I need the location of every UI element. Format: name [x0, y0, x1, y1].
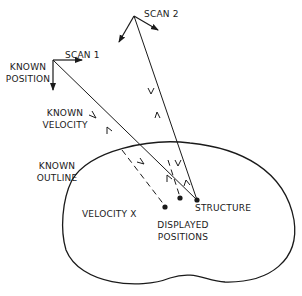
- known-position-line2: POSITION: [4, 73, 52, 85]
- known-velocity-line2: VELOCITY: [40, 119, 90, 131]
- scan2-label: SCAN 2: [144, 8, 179, 20]
- structure-label: STRUCTURE: [195, 202, 251, 214]
- ultrasound-scan-diagram: SCAN 1 SCAN 2 KNOWN POSITION KNOWN VELOC…: [0, 0, 302, 296]
- known-velocity-label: KNOWN VELOCITY: [40, 107, 90, 131]
- displayed-positions-line1: DISPLAYED: [155, 219, 211, 231]
- diagram-graphics: [0, 0, 302, 296]
- known-outline-line1: KNOWN: [36, 160, 78, 172]
- scan1-label: SCAN 1: [65, 49, 100, 61]
- displayed-positions-label: DISPLAYED POSITIONS: [155, 219, 211, 243]
- known-outline-label: KNOWN OUTLINE: [36, 160, 78, 184]
- known-velocity-line1: KNOWN: [40, 107, 90, 119]
- scan2-beam: [134, 16, 197, 200]
- displayed-position-point-1: [162, 204, 167, 209]
- known-position-label: KNOWN POSITION: [4, 61, 52, 85]
- velocity-x-label: VELOCITY X: [82, 208, 137, 220]
- known-outline-line2: OUTLINE: [36, 172, 78, 184]
- known-position-line1: KNOWN: [4, 61, 52, 73]
- displayed-position-point-2: [177, 195, 182, 200]
- displayed-positions-line2: POSITIONS: [155, 231, 211, 243]
